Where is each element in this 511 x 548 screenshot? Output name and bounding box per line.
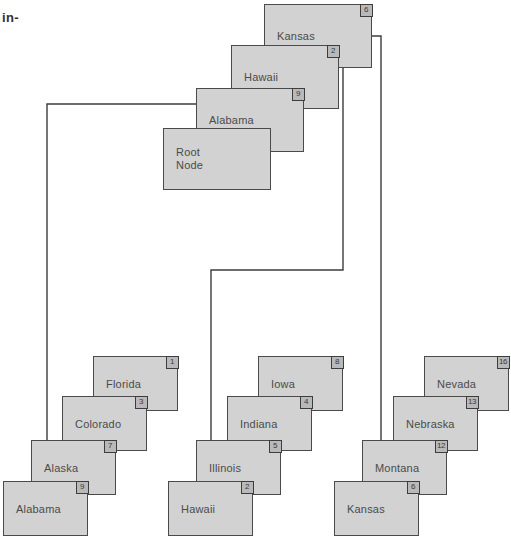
node-badge: 2: [241, 481, 254, 494]
node-badge: 8: [331, 356, 344, 369]
node-label: Kansas: [277, 30, 315, 43]
node-badge: 3: [135, 396, 148, 409]
node-label: Indiana: [240, 417, 278, 430]
node-badge: 6: [407, 481, 420, 494]
diagram-canvas: in- Kansas6Hawaii2Alabama9Root NodeFlori…: [0, 0, 511, 548]
node-box[interactable]: Root Node: [163, 128, 271, 190]
node-badge: 4: [300, 396, 313, 409]
node-box[interactable]: Hawaii2: [168, 481, 253, 536]
node-box[interactable]: Alabama9: [3, 481, 88, 536]
node-label: Alabama: [16, 502, 61, 515]
node-badge: 1: [166, 356, 179, 369]
node-badge: 16: [497, 356, 510, 369]
node-label: Iowa: [271, 377, 295, 390]
node-label: Alaska: [44, 461, 78, 474]
node-label: Kansas: [347, 502, 385, 515]
node-badge: 9: [292, 88, 305, 101]
connector-kansas-to-montana: [372, 36, 381, 475]
node-label: Florida: [106, 377, 141, 390]
node-badge: 9: [76, 481, 89, 494]
node-label: Root Node: [176, 146, 203, 172]
node-badge: 2: [327, 45, 340, 58]
node-badge: 7: [104, 440, 117, 453]
node-box[interactable]: Kansas6: [334, 481, 419, 536]
node-label: Illinois: [209, 461, 241, 474]
node-label: Hawaii: [181, 502, 215, 515]
node-label: Hawaii: [244, 71, 278, 84]
node-label: Montana: [375, 461, 419, 474]
node-label: Alabama: [209, 114, 254, 127]
node-label: Colorado: [75, 417, 121, 430]
node-badge: 13: [466, 396, 479, 409]
node-badge: 5: [269, 440, 282, 453]
node-badge: 6: [360, 4, 373, 17]
node-label: Nebraska: [406, 417, 455, 430]
node-badge: 12: [435, 440, 448, 453]
node-label: Nevada: [437, 377, 476, 390]
margin-text-fragment: in-: [2, 10, 19, 25]
